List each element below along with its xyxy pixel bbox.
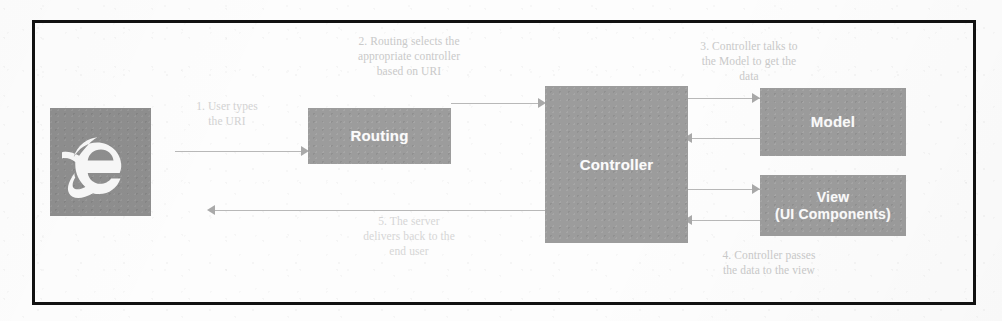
arrow-controller-to-view	[752, 184, 760, 194]
annotation-step-5: 5. The server delivers back to the end u…	[319, 214, 499, 259]
model-node[interactable]: Model	[760, 88, 906, 156]
connector-controller-return	[211, 210, 545, 211]
annotation-step-4: 4. Controller passes the data to the vie…	[681, 248, 857, 278]
arrow-controller-return	[207, 205, 215, 215]
arrow-controller-to-model	[752, 93, 760, 103]
view-label-primary: View	[817, 189, 849, 205]
connector-browser-to-routing	[175, 151, 303, 152]
scanned-page: Routing Controller Model View (UI Compon…	[0, 0, 1002, 321]
connector-controller-to-view	[688, 189, 760, 190]
controller-label: Controller	[580, 156, 654, 173]
annotation-step-1: 1. User types the URI	[179, 99, 275, 129]
diagram-frame: Routing Controller Model View (UI Compon…	[32, 20, 976, 305]
model-label: Model	[811, 113, 855, 130]
annotation-step-2: 2. Routing selects the appropriate contr…	[321, 34, 497, 79]
connector-routing-to-controller	[451, 103, 543, 104]
annotation-step-3: 3. Controller talks to the Model to get …	[669, 39, 829, 84]
browser-node[interactable]	[50, 108, 151, 216]
view-node[interactable]: View (UI Components)	[760, 175, 906, 236]
routing-node[interactable]: Routing	[308, 108, 451, 164]
connector-model-to-controller	[688, 138, 760, 139]
view-label-secondary: (UI Components)	[775, 206, 891, 222]
routing-label: Routing	[350, 127, 408, 144]
internet-explorer-icon	[62, 123, 140, 201]
connector-controller-to-model	[688, 98, 760, 99]
controller-node[interactable]: Controller	[545, 86, 688, 243]
connector-view-to-controller	[688, 220, 760, 221]
